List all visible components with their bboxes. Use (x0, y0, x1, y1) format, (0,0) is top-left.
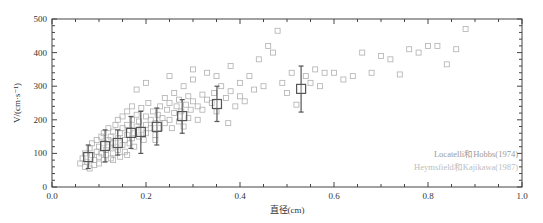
scatter-point (94, 149, 99, 154)
scatter-point (111, 129, 116, 134)
scatter-point (183, 102, 188, 107)
mean-marker (84, 153, 93, 162)
scatter-point (463, 27, 468, 32)
x-tick-label: 0.0 (46, 191, 58, 201)
mean-marker (152, 122, 161, 131)
scatter-point (125, 109, 130, 114)
scatter-point (454, 47, 459, 52)
scatter-layer (78, 27, 468, 171)
scatter-point (426, 43, 431, 48)
scatter-point (134, 87, 139, 92)
scatter-point (104, 153, 109, 158)
mean-marker (113, 138, 122, 147)
scatter-point (212, 90, 217, 95)
scatter-point (369, 70, 374, 75)
scatter-point (167, 117, 172, 122)
mean-marker (212, 100, 221, 109)
scatter-point (144, 114, 149, 119)
scatter-point (322, 70, 327, 75)
scatter-point (188, 107, 193, 112)
chart: 0.00.20.40.60.81.0 0100200300400500 直径(c… (0, 0, 543, 223)
x-tick-label: 0.8 (422, 191, 434, 201)
scatter-point (200, 107, 205, 112)
y-tick-label: 500 (34, 14, 48, 24)
scatter-point (167, 101, 172, 106)
scatter-point (388, 57, 393, 62)
y-tick-label: 100 (34, 148, 48, 158)
x-tick-labels: 0.00.20.40.60.81.0 (46, 191, 528, 201)
x-tick-label: 1.0 (516, 191, 528, 201)
scatter-point (205, 70, 210, 75)
scatter-point (191, 67, 196, 72)
scatter-point (92, 163, 97, 168)
mean-marker (101, 142, 110, 151)
scatter-point (435, 43, 440, 48)
scatter-point (238, 94, 243, 99)
scatter-point (275, 28, 280, 33)
scatter-point (200, 92, 205, 97)
scatter-point (181, 84, 186, 89)
scatter-point (407, 47, 412, 52)
scatter-point (174, 104, 179, 109)
y-tick-label: 400 (34, 48, 48, 58)
scatter-point (270, 50, 275, 55)
scatter-point (444, 62, 449, 67)
scatter-point (416, 50, 421, 55)
scatter-point (191, 99, 196, 104)
y-tick-labels: 0100200300400500 (34, 14, 48, 192)
scatter-point (125, 122, 130, 127)
scatter-point (120, 114, 125, 119)
scatter-point (379, 53, 384, 58)
scatter-point (113, 122, 118, 127)
scatter-point (144, 80, 149, 85)
scatter-point (233, 104, 238, 109)
scatter-point (111, 151, 116, 156)
scatter-point (151, 109, 156, 114)
scatter-point (169, 126, 174, 131)
mean-marker (297, 84, 306, 93)
x-tick-label: 0.4 (234, 191, 246, 201)
scatter-point (226, 121, 231, 126)
scatter-point (78, 161, 83, 166)
scatter-point (134, 112, 139, 117)
scatter-point (308, 80, 313, 85)
scatter-point (242, 99, 247, 104)
scatter-point (94, 137, 99, 142)
scatter-point (172, 111, 177, 116)
scatter-point (223, 95, 228, 100)
x-tick-label: 0.6 (328, 191, 340, 201)
scatter-point (146, 101, 151, 106)
scatter-point (167, 74, 172, 79)
scatter-point (252, 87, 257, 92)
scatter-point (191, 77, 196, 82)
scatter-point (129, 104, 134, 109)
scatter-point (289, 70, 294, 75)
x-axis-title: 直径(cm) (270, 204, 305, 215)
mean-marker (178, 112, 187, 121)
scatter-point (317, 84, 322, 89)
scatter-point (160, 116, 165, 121)
scatter-point (313, 67, 318, 72)
scatter-point (360, 50, 365, 55)
scatter-point (120, 126, 125, 131)
mean-marker (126, 128, 135, 137)
mean-marker (136, 127, 145, 136)
scatter-point (332, 70, 337, 75)
scatter-point (122, 137, 127, 142)
scatter-point (165, 107, 170, 112)
scatter-point (195, 104, 200, 109)
scatter-point (148, 117, 153, 122)
scatter-point (261, 84, 266, 89)
scatter-point (266, 43, 271, 48)
y-axis-title: V/(cm·s⁻¹) (12, 83, 22, 123)
scatter-point (172, 90, 177, 95)
y-tick-label: 200 (34, 115, 48, 125)
scatter-point (139, 106, 144, 111)
scatter-point (228, 89, 233, 94)
scatter-point (97, 161, 102, 166)
scatter-point (115, 117, 120, 122)
scatter-point (195, 117, 200, 122)
scatter-point (162, 121, 167, 126)
scatter-point (247, 74, 252, 79)
scatter-point (129, 117, 134, 122)
